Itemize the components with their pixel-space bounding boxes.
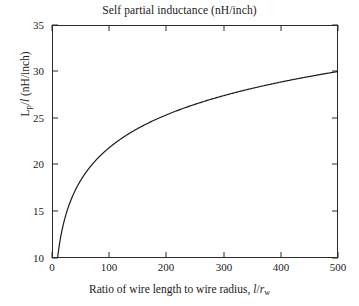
x-axis-label: Ratio of wire length to wire radius, l/r… — [0, 283, 359, 297]
ytick-label-15: 15 — [33, 205, 44, 217]
xtick-label-0: 0 — [49, 261, 55, 273]
xtick-label-500: 500 — [330, 261, 347, 273]
xtick-label-400: 400 — [273, 261, 290, 273]
series-line-lp-over-l — [58, 71, 338, 258]
curve-clip-region — [52, 25, 338, 258]
chart-title: Self partial inductance (nH/inch) — [0, 4, 359, 16]
ytick-label-30: 30 — [33, 65, 44, 77]
y-axis-label-slash: / — [19, 102, 31, 105]
y-axis-label: Lp/l (nH/inch) — [19, 4, 33, 164]
x-axis-label-sub-w: w — [264, 288, 270, 297]
chart-figure: Self partial inductance (nH/inch) — [0, 0, 359, 306]
y-axis-label-sub-p: p — [23, 105, 33, 109]
x-axis-label-text: Ratio of wire length to wire radius, — [89, 283, 253, 295]
xtick-label-300: 300 — [216, 261, 233, 273]
ytick-label-20: 20 — [33, 158, 44, 170]
y-axis-label-L: L — [19, 110, 31, 117]
ytick-label-35: 35 — [33, 19, 44, 31]
y-axis-label-units: (nH/inch) — [19, 51, 31, 99]
xtick-label-100: 100 — [101, 261, 118, 273]
data-curve-svg — [52, 25, 338, 258]
xtick-label-200: 200 — [158, 261, 175, 273]
ytick-label-25: 25 — [33, 112, 44, 124]
ytick-label-10: 10 — [33, 252, 44, 264]
y-axis-label-l: l — [19, 99, 31, 102]
